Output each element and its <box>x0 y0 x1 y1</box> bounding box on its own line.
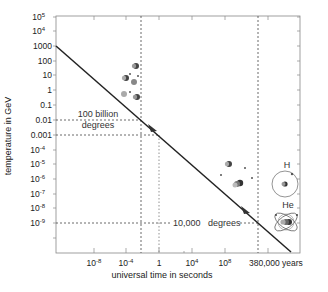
hydrogen-atom-icon <box>272 171 298 197</box>
y-axis-ticks <box>53 17 56 238</box>
y-tick-label: 0.01 <box>35 115 52 125</box>
x-tick-label: 108 <box>219 258 232 269</box>
y-tick-label: 10 <box>43 70 53 80</box>
label-H: H <box>284 160 291 170</box>
y-tick-label: 1000 <box>33 41 52 51</box>
annotation-degrees-1: degrees <box>82 120 115 130</box>
x-tick-label: 1 <box>157 258 162 268</box>
y-tick-label: 10-9 <box>30 218 45 229</box>
y-tick-label: 10-7 <box>30 189 45 200</box>
y-axis-ticks-right <box>297 17 300 223</box>
particle-cluster-early <box>121 63 140 100</box>
annotation-100-billion: 100 billion <box>78 109 119 119</box>
y-tick-label: 10-5 <box>30 159 45 170</box>
annotation-10000: 10,000 <box>173 218 201 228</box>
universe-temperature-chart: 10510410001001010.10.010.00110-410-510-6… <box>0 0 328 292</box>
y-tick-label: 10-4 <box>30 145 45 156</box>
y-tick-label: 10-8 <box>30 203 45 214</box>
y-tick-label: 1 <box>47 85 52 95</box>
y-axis-title: temperature in GeV <box>3 97 13 176</box>
y-tick-label: 105 <box>32 12 45 23</box>
x-axis-title: universal time in seconds <box>111 270 213 280</box>
x-tick-label: 10-8 <box>87 258 102 269</box>
annotation-degrees-2: degrees <box>208 218 241 228</box>
y-tick-label: 10-6 <box>30 174 45 185</box>
y-tick-label: 0.1 <box>40 100 52 110</box>
y-tick-label: 104 <box>32 26 45 37</box>
nuclei-cluster <box>220 161 253 188</box>
x-tick-label: 380,000 years <box>249 258 303 268</box>
x-tick-label: 10-4 <box>119 258 134 269</box>
y-tick-label: 100 <box>38 56 52 66</box>
helium-atom-icon <box>272 210 300 235</box>
y-axis-labels: 10510410001001010.10.010.00110-410-510-6… <box>30 12 52 229</box>
x-axis-labels: 10-810-41104108380,000 years <box>87 258 303 269</box>
label-He: He <box>282 200 294 210</box>
y-tick-label: 0.001 <box>31 130 53 140</box>
x-tick-label: 104 <box>186 258 199 269</box>
